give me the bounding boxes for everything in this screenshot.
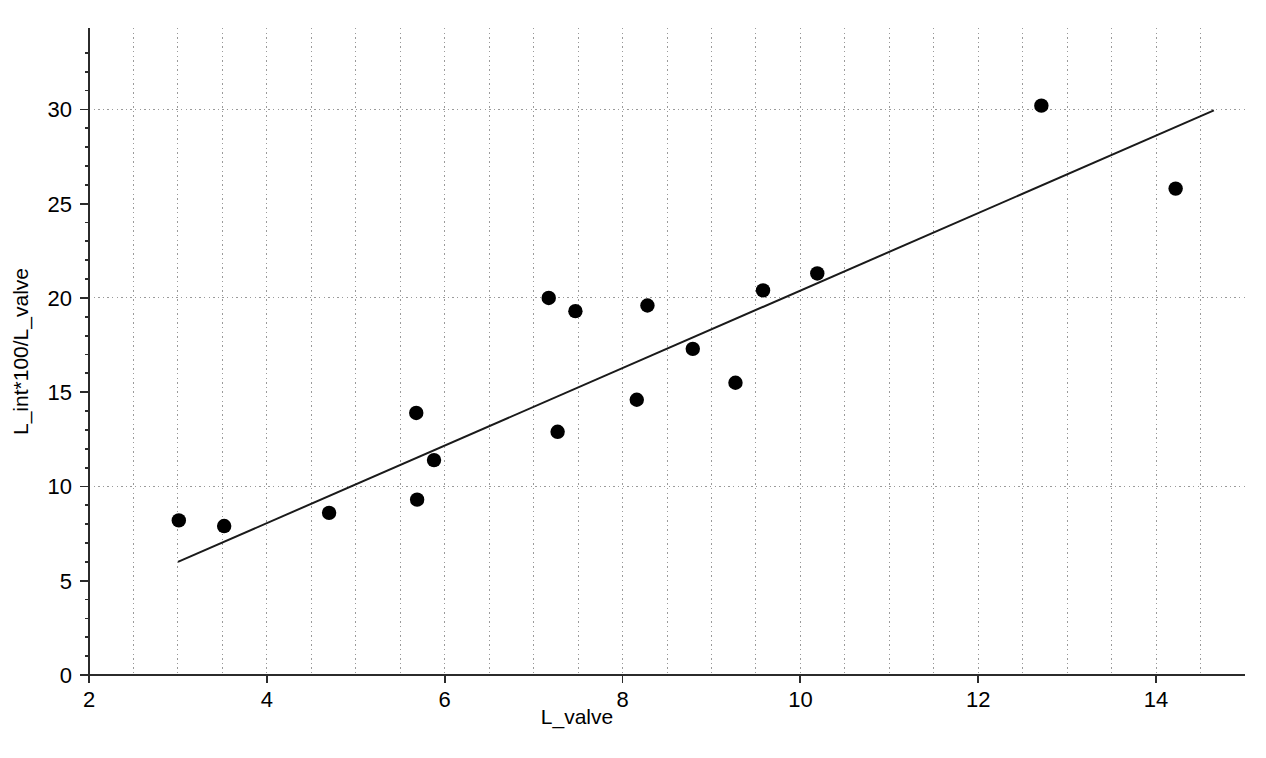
x-tick-label: 10 xyxy=(788,687,812,712)
x-tick-label: 12 xyxy=(966,687,990,712)
data-point xyxy=(568,304,582,318)
data-point xyxy=(427,453,441,467)
y-tick-label: 30 xyxy=(48,97,72,122)
data-point xyxy=(686,342,700,356)
x-tick-label: 2 xyxy=(83,687,95,712)
y-axis-tick-labels: 051015202530 xyxy=(48,97,72,688)
x-tick-label: 4 xyxy=(261,687,273,712)
data-point xyxy=(1034,98,1048,112)
scatter-chart: 2468101214 051015202530 L_valve L_int*10… xyxy=(0,0,1266,758)
y-tick-label: 20 xyxy=(48,286,72,311)
data-point xyxy=(542,291,556,305)
horizontal-gridlines xyxy=(89,109,1245,486)
data-point xyxy=(630,393,644,407)
data-point xyxy=(640,298,654,312)
data-points xyxy=(172,98,1183,533)
x-axis-title: L_valve xyxy=(541,705,613,729)
y-tick-label: 15 xyxy=(48,380,72,405)
y-axis-ticks xyxy=(80,53,89,675)
y-tick-label: 25 xyxy=(48,192,72,217)
data-point xyxy=(410,492,424,506)
data-point xyxy=(409,406,423,420)
vertical-gridlines xyxy=(133,28,1200,675)
data-point xyxy=(217,519,231,533)
data-point xyxy=(1168,181,1182,195)
y-tick-label: 0 xyxy=(60,663,72,688)
x-tick-label: 8 xyxy=(616,687,628,712)
x-tick-label: 14 xyxy=(1144,687,1168,712)
data-point xyxy=(728,376,742,390)
y-axis-title: L_int*100/L_valve xyxy=(9,268,33,435)
x-axis-ticks xyxy=(89,675,1156,683)
trendline xyxy=(178,110,1214,562)
data-point xyxy=(756,283,770,297)
data-point xyxy=(172,513,186,527)
x-axis-tick-labels: 2468101214 xyxy=(83,687,1168,712)
y-tick-label: 5 xyxy=(60,569,72,594)
plot-canvas: 2468101214 051015202530 L_valve L_int*10… xyxy=(0,0,1266,758)
data-point xyxy=(550,425,564,439)
x-tick-label: 6 xyxy=(439,687,451,712)
data-point xyxy=(322,506,336,520)
y-tick-label: 10 xyxy=(48,474,72,499)
data-point xyxy=(810,266,824,280)
